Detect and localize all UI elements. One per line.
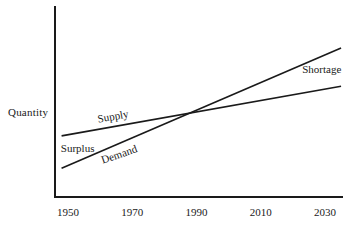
surplus-region-label: Surplus xyxy=(61,142,95,154)
axes xyxy=(55,6,343,197)
x-tick-2030: 2030 xyxy=(314,206,336,218)
plot-area xyxy=(0,0,345,230)
x-tick-1990: 1990 xyxy=(186,206,208,218)
demand-line xyxy=(62,48,341,168)
x-tick-1950: 1950 xyxy=(57,206,79,218)
x-tick-2010: 2010 xyxy=(250,206,272,218)
supply-demand-chart: Quantity Supply Demand Surplus Shortage … xyxy=(0,0,345,230)
x-tick-1970: 1970 xyxy=(121,206,143,218)
y-axis-label: Quantity xyxy=(8,106,48,118)
shortage-region-label: Shortage xyxy=(302,63,341,75)
